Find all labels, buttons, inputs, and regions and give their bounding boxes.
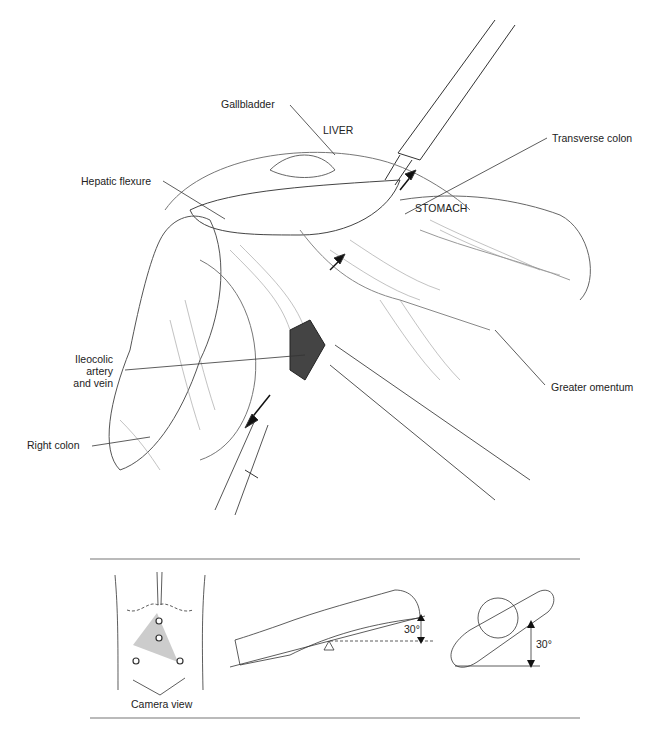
label-transverse-colon: Transverse colon bbox=[552, 132, 632, 144]
label-liver: LIVER bbox=[323, 124, 353, 136]
label-ileocolic-line3: and vein bbox=[55, 377, 113, 389]
label-gallbladder: Gallbladder bbox=[221, 98, 275, 110]
label-ileocolic-line2: artery bbox=[55, 365, 113, 377]
label-camera-view: Camera view bbox=[131, 698, 192, 710]
rolled-patient-figure bbox=[451, 590, 554, 667]
label-roll-angle: 30° bbox=[536, 638, 552, 650]
label-ileocolic-line1: Ileocolic bbox=[55, 353, 113, 365]
tilted-patient-figure bbox=[230, 590, 433, 667]
label-greater-omentum: Greater omentum bbox=[551, 381, 633, 393]
label-hepatic-flexure: Hepatic flexure bbox=[81, 175, 151, 187]
label-right-colon: Right colon bbox=[27, 439, 80, 451]
label-stomach: STOMACH bbox=[415, 202, 467, 214]
label-tilt-angle: 30° bbox=[404, 623, 420, 635]
